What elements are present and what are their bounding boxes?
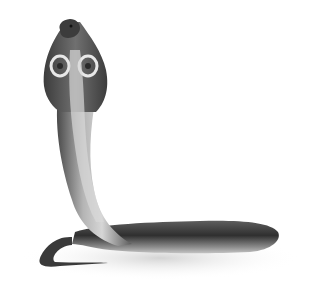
cobra-illustration	[0, 0, 310, 303]
hood-eyespot-left	[57, 63, 63, 69]
cobra-eye	[70, 25, 73, 28]
hood-eyespot-right	[85, 63, 91, 69]
cobra-neck	[57, 95, 132, 246]
